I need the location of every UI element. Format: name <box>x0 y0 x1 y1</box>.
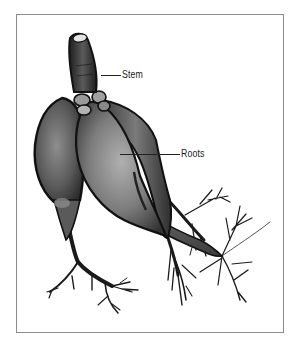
roots-label: Roots <box>181 148 204 160</box>
stem-shape <box>69 34 96 92</box>
root-drawing <box>0 0 298 350</box>
roots-leader-line <box>120 154 180 155</box>
stem-label: Stem <box>122 69 143 81</box>
root-illustration-figure: Stem Roots <box>0 0 298 350</box>
stem-leader-line <box>101 75 121 76</box>
